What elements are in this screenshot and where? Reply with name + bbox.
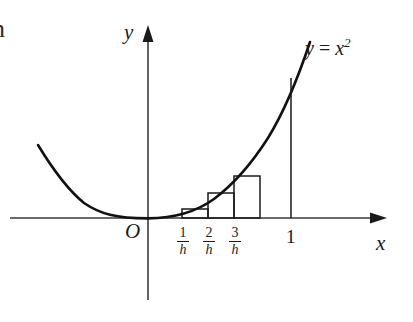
tick-label-one-over-h: 1 h xyxy=(170,226,196,257)
tick-2-denominator: h xyxy=(196,243,222,257)
tick-1-numerator: 1 xyxy=(170,226,196,241)
tick-label-one: 1 xyxy=(286,227,296,246)
diagram-canvas xyxy=(0,0,413,322)
curve-equation-exponent: 2 xyxy=(344,35,351,50)
y-axis-arrowhead xyxy=(143,25,154,42)
riemann-rectangle-2 xyxy=(208,193,234,218)
tick-1-denominator: h xyxy=(170,243,196,257)
x-axis-label: x xyxy=(376,233,385,254)
tick-3-denominator: h xyxy=(222,243,248,257)
tick-label-two-over-h: 2 h xyxy=(196,226,222,257)
curve-equation-variable: x xyxy=(335,37,344,59)
curve-equation-label: y = x2 xyxy=(305,36,351,58)
curve-equation-operator: = xyxy=(314,37,335,59)
tick-3-numerator: 3 xyxy=(222,226,248,241)
math-figure: n y x O y = x2 1 h 2 h 3 h 1 xyxy=(0,0,413,322)
riemann-rectangle-3 xyxy=(234,176,260,218)
origin-label: O xyxy=(125,221,140,242)
page-edge-artifact: n xyxy=(0,16,13,50)
tick-2-numerator: 2 xyxy=(196,226,222,241)
page-edge-artifact-glyph: n xyxy=(0,16,5,43)
x-axis-arrowhead xyxy=(370,213,387,224)
curve-equation-lhs: y xyxy=(305,37,314,59)
tick-label-three-over-h: 3 h xyxy=(222,226,248,257)
parabola-curve xyxy=(38,42,310,218)
y-axis-label: y xyxy=(124,22,133,43)
